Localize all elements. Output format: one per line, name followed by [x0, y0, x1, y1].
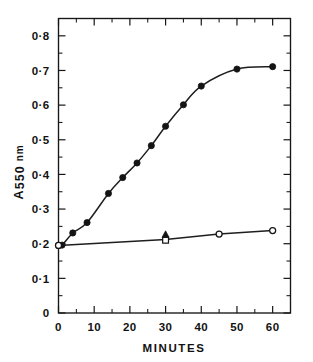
data-point-filled-circle — [180, 102, 186, 108]
data-point-filled-circle — [84, 219, 90, 225]
x-tick-label: 20 — [123, 321, 137, 333]
y-tick-label: 0·4 — [32, 169, 50, 181]
y-tick-label: 0·1 — [32, 273, 50, 285]
data-point-open-circle — [216, 231, 222, 237]
x-tick-label: 50 — [230, 321, 244, 333]
x-axis-title: MINUTES — [143, 342, 206, 354]
data-point-filled-circle — [234, 66, 240, 72]
data-point-filled-circle — [148, 143, 154, 149]
figure-container: 0102030405060 00·10·20·30·40·50·60·70·8 … — [0, 0, 313, 362]
data-point-filled-circle — [198, 83, 204, 89]
x-tick-label: 60 — [266, 321, 280, 333]
y-tick-label: 0·7 — [32, 65, 50, 77]
y-tick-label: 0·8 — [32, 30, 50, 42]
y-tick-labels: 00·10·20·30·40·50·60·70·8 — [32, 30, 50, 319]
data-point-open-square — [163, 237, 169, 243]
y-axis-subscript: 550 — [13, 165, 27, 189]
y-tick-label: 0 — [43, 307, 50, 319]
y-tick-label: 0·6 — [32, 99, 50, 111]
x-tick-label: 10 — [87, 321, 101, 333]
y-axis-title-text: A550nm — [12, 145, 27, 200]
x-tick-label: 40 — [194, 321, 208, 333]
x-tick-label: 30 — [159, 321, 173, 333]
y-axis-symbol: A — [12, 189, 26, 199]
y-tick-label: 0·2 — [32, 238, 50, 250]
data-point-filled-circle — [105, 190, 111, 196]
y-tick-label: 0·5 — [32, 134, 50, 146]
line-chart: 0102030405060 00·10·20·30·40·50·60·70·8 … — [0, 0, 313, 362]
data-point-open-circle — [56, 242, 62, 248]
data-point-filled-circle — [162, 123, 168, 129]
y-axis-unit: nm — [14, 145, 25, 162]
data-point-filled-circle — [270, 64, 276, 70]
data-point-filled-circle — [120, 174, 126, 180]
y-tick-label: 0·3 — [32, 203, 50, 215]
data-point-open-circle — [270, 228, 276, 234]
data-point-filled-circle — [70, 230, 76, 236]
x-tick-label: 0 — [55, 321, 62, 333]
y-axis-title: A550nm — [12, 145, 27, 200]
data-point-filled-circle — [134, 160, 140, 166]
